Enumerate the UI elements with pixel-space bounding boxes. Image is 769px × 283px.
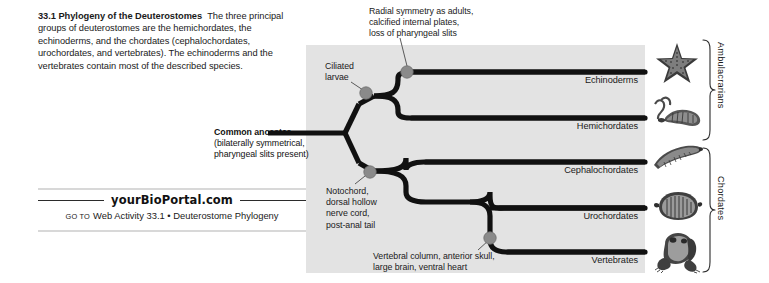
node-echinoderm-synapomorphy <box>401 66 413 78</box>
figure-33-1: 33.1 Phylogeny of the Deuterostomes The … <box>0 0 769 283</box>
group-label-chordates: Chordates <box>716 176 726 220</box>
taxon-label-vertebrates: Vertebrates <box>478 255 638 265</box>
taxon-label-urochordates: Urochordates <box>478 211 638 221</box>
lancelet-illustration <box>652 143 704 173</box>
annotation-common-ancestor: Common ancestor (bilaterally symmetrical… <box>214 127 334 161</box>
frog-illustration <box>653 230 705 274</box>
node-chordate-synapomorphy <box>364 166 376 178</box>
bracket-ambulacrarians <box>703 40 715 140</box>
common-ancestor-traits: (bilaterally symmetrical, pharyngeal sli… <box>214 138 334 160</box>
branch-to-ambulacrarians <box>345 104 359 133</box>
sea-squirt-illustration <box>653 189 703 223</box>
leader-radial <box>400 38 407 66</box>
branch-olfactores-stem <box>373 171 470 202</box>
branch-to-chordates <box>345 133 359 163</box>
tree-nodes <box>360 66 496 244</box>
common-ancestor-title: Common ancestor <box>214 127 334 138</box>
annotation-echinoderm-traits: Radial symmetry as adults, calcified int… <box>369 6 473 40</box>
taxon-label-cephalochordates: Cephalochordates <box>478 165 638 175</box>
taxon-label-hemichordates: Hemichordates <box>478 121 638 131</box>
node-vertebrate-synapomorphy <box>484 232 496 244</box>
annotation-chordate-traits: Notochord, dorsal hollow nerve cord, pos… <box>326 186 377 231</box>
acorn-worm-illustration <box>651 92 703 134</box>
taxon-label-echinoderms: Echinoderms <box>478 75 638 85</box>
group-label-ambulacrarians: Ambulacrarians <box>716 42 726 109</box>
sea-star-illustration <box>653 40 701 88</box>
branch-hemichordates <box>374 96 645 118</box>
node-ambulacrarian-synapomorphy <box>360 87 372 99</box>
annotation-vertebrate-traits: Vertebral column, anterior skull, large … <box>373 251 495 273</box>
annotation-ciliated-larvae: Ciliated larvae <box>325 61 354 83</box>
